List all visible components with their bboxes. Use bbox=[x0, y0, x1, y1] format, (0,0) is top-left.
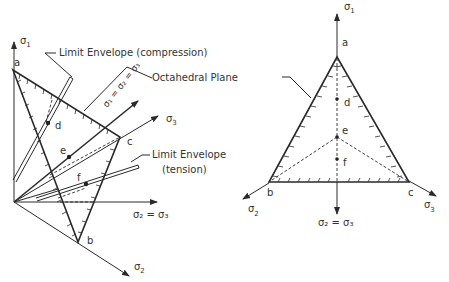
sigma2-eq-sigma3-label-right: σ₂ = σ₃ bbox=[318, 217, 353, 228]
tension-envelope-label-line2: (tension) bbox=[162, 164, 207, 175]
failure-envelope-figure: σ1 a d e f c b σ3 σ₂ = σ₃ σ2 σ₁ = σ₂ = σ… bbox=[0, 0, 449, 282]
point-e-right bbox=[335, 135, 339, 139]
label-d: d bbox=[55, 120, 61, 131]
label-c-right: c bbox=[408, 187, 414, 198]
dashed-line bbox=[50, 137, 120, 175]
label-f: f bbox=[77, 172, 81, 183]
label-b: b bbox=[87, 235, 93, 246]
octahedral-plane-label: Octahedral Plane bbox=[152, 72, 238, 83]
compression-envelope-label: Limit Envelope (compression) bbox=[59, 47, 208, 58]
hatching-right bbox=[273, 66, 402, 182]
deviatoric-triangle bbox=[269, 57, 409, 182]
point-e bbox=[67, 155, 71, 159]
dashed-line bbox=[269, 137, 337, 182]
sigma2-axis bbox=[14, 202, 129, 276]
sigma2-label-right: σ2 bbox=[248, 203, 259, 218]
sigma3-label: σ3 bbox=[166, 113, 177, 127]
point-d-right bbox=[335, 97, 339, 101]
label-a-right: a bbox=[342, 37, 348, 48]
sigma2-label: σ2 bbox=[134, 261, 145, 275]
point-f-right bbox=[335, 157, 339, 161]
label-e-right: e bbox=[342, 125, 348, 136]
label-e: e bbox=[60, 145, 66, 156]
sigma2-eq-sigma3-label: σ₂ = σ₃ bbox=[133, 209, 168, 220]
point-d bbox=[46, 121, 50, 125]
label-d-right: d bbox=[344, 97, 350, 108]
tension-envelope-label-line1: Limit Envelope bbox=[152, 149, 226, 160]
label-c: c bbox=[127, 136, 133, 147]
construction-line bbox=[14, 189, 58, 202]
label-f-right: f bbox=[343, 157, 347, 168]
sigma1-label-right: σ1 bbox=[344, 1, 355, 15]
dashed-line bbox=[337, 137, 409, 182]
tension-leader bbox=[131, 155, 150, 162]
right-deviatoric-diagram: σ1 a d e f b c σ2 σ3 σ₂ = σ₃ bbox=[243, 1, 436, 228]
octahedral-plane-triangle bbox=[13, 70, 120, 242]
octahedral-leader-right bbox=[282, 77, 311, 98]
sigma1-label: σ1 bbox=[20, 35, 31, 49]
label-a: a bbox=[14, 57, 20, 68]
sigma2-axis-right bbox=[243, 183, 269, 199]
sigma3-label-right: σ3 bbox=[424, 199, 435, 214]
label-b-right: b bbox=[267, 187, 273, 198]
left-3d-diagram: σ1 a d e f c b σ3 σ₂ = σ₃ σ2 σ₁ = σ₂ = σ… bbox=[13, 35, 238, 276]
point-f bbox=[84, 182, 88, 186]
